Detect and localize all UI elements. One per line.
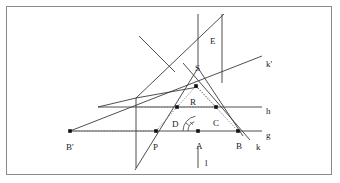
point-dot-C [214,105,218,109]
line-label-g: g [266,131,271,140]
line-label-kp: k' [266,60,272,69]
diagram-frame: ABB'CDPRSEhgkk'l [0,0,340,183]
tick-large [186,123,189,126]
point-label-D: D [172,120,179,129]
point-dot-B [236,129,240,133]
left-wing-upper [98,98,136,107]
point-dot-A [196,129,200,133]
line-label-k: k [256,143,261,152]
point-label-R: R [190,98,196,107]
diagram-canvas [0,0,340,183]
point-dot-D [175,105,179,109]
diagonal-cross [139,36,175,72]
point-dot-R [194,84,198,88]
angle-arc-large [183,116,195,131]
point-label-C: C [213,119,219,128]
ray-S-to-B [198,68,243,136]
solid-lines-group [70,14,262,170]
point-label-A: A [196,142,203,151]
point-label-E: E [210,37,216,46]
point-dot-Bp [68,129,72,133]
line-label-l: l [205,159,208,168]
point-label-B: B [236,142,242,151]
point-label-S: S [195,64,200,73]
line-label-h: h [266,107,271,116]
point-label-Bp: B' [66,143,74,152]
angle-arcs-group [183,116,195,131]
point-dot-P [154,129,158,133]
diagonal-up-right [136,14,224,98]
point-label-P: P [153,143,158,152]
